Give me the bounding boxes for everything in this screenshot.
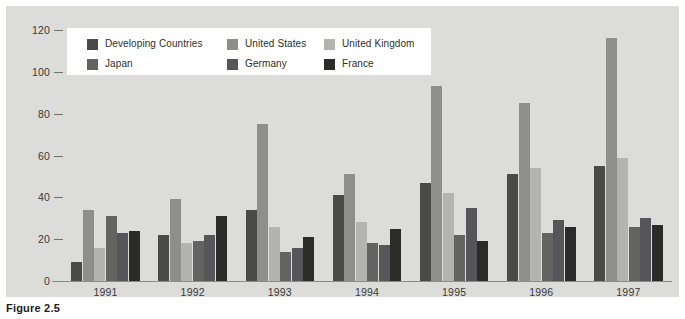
legend-swatch-germany [227, 59, 238, 70]
legend-row-1: Developing Countries United States Unite… [67, 34, 431, 54]
bar-developing-countries-1992 [158, 235, 169, 281]
bar-france-1992 [216, 216, 227, 281]
bar-france-1995 [477, 241, 488, 281]
bar-united-states-1995 [431, 86, 442, 281]
bar-united-kingdom-1996 [530, 168, 541, 281]
y-axis-tick-label: 60 [16, 151, 50, 162]
bar-united-kingdom-1994 [356, 222, 367, 281]
bar-united-kingdom-1992 [181, 243, 192, 281]
bar-germany-1991 [117, 233, 128, 281]
bar-japan-1993 [280, 252, 291, 281]
x-axis-tick-label: 1996 [511, 287, 571, 298]
bar-united-states-1997 [606, 38, 617, 281]
legend-label-developing-countries: Developing Countries [105, 39, 203, 49]
legend-swatch-developing-countries [87, 39, 98, 50]
legend-swatch-japan [87, 59, 98, 70]
bar-germany-1994 [379, 245, 390, 281]
y-axis-tick-label-wrap: 120 [8, 30, 50, 31]
y-axis-tick-label-wrap: 0 [8, 281, 50, 282]
bar-japan-1995 [454, 235, 465, 281]
y-axis-tick-label: 120 [16, 25, 50, 36]
chart-legend: Developing Countries United States Unite… [67, 28, 431, 75]
y-axis-tick-label: 20 [16, 234, 50, 245]
bar-germany-1995 [466, 208, 477, 281]
bar-united-states-1996 [519, 103, 530, 281]
bar-united-kingdom-1995 [443, 193, 454, 281]
x-axis-tick-label: 1993 [250, 287, 310, 298]
bar-developing-countries-1995 [420, 183, 431, 281]
y-axis-tick [54, 156, 63, 157]
bar-united-kingdom-1993 [269, 227, 280, 281]
figure-caption: Figure 2.5 [6, 303, 60, 314]
bar-united-kingdom-1997 [617, 158, 628, 281]
bar-france-1991 [129, 231, 140, 281]
legend-item-united-states[interactable]: United States [227, 34, 306, 54]
bar-japan-1991 [106, 216, 117, 281]
y-axis-tick-label-wrap: 20 [8, 239, 50, 240]
legend-item-france[interactable]: France [324, 54, 374, 74]
legend-label-germany: Germany [245, 59, 287, 69]
bar-japan-1997 [629, 227, 640, 281]
bar-france-1996 [565, 227, 576, 281]
y-axis-tick-label: 40 [16, 192, 50, 203]
bar-germany-1997 [640, 218, 651, 281]
y-axis-tick-label-wrap: 40 [8, 197, 50, 198]
figure-container: 020406080100120 199119921993199419951996… [0, 0, 685, 319]
x-axis-tick-label: 1997 [598, 287, 658, 298]
bar-united-states-1992 [170, 199, 181, 281]
legend-item-japan[interactable]: Japan [87, 54, 133, 74]
y-axis-tick-label: 0 [16, 276, 50, 287]
legend-swatch-united-states [227, 39, 238, 50]
legend-label-united-kingdom: United Kingdom [342, 39, 415, 49]
y-axis-tick-label: 100 [16, 67, 50, 78]
bar-united-states-1994 [344, 174, 355, 281]
y-axis-tick [54, 239, 63, 240]
y-axis-tick [54, 72, 63, 73]
y-axis-tick [54, 30, 63, 31]
legend-label-united-states: United States [245, 39, 306, 49]
bar-germany-1996 [553, 220, 564, 281]
bar-france-1997 [652, 225, 663, 281]
bar-germany-1992 [204, 235, 215, 281]
x-axis-tick-label: 1994 [337, 287, 397, 298]
legend-item-united-kingdom[interactable]: United Kingdom [324, 34, 415, 54]
bar-japan-1996 [542, 233, 553, 281]
bar-developing-countries-1993 [246, 210, 257, 281]
y-axis-tick [54, 197, 63, 198]
x-axis-tick-label: 1991 [76, 287, 136, 298]
bar-united-states-1991 [83, 210, 94, 281]
y-axis-tick-label: 80 [16, 109, 50, 120]
bar-developing-countries-1994 [333, 195, 344, 281]
bar-france-1994 [390, 229, 401, 281]
y-axis-tick-label-wrap: 100 [8, 72, 50, 73]
legend-item-developing-countries[interactable]: Developing Countries [87, 34, 203, 54]
bar-united-states-1993 [257, 124, 268, 281]
legend-swatch-france [324, 59, 335, 70]
bar-germany-1993 [292, 248, 303, 281]
bar-japan-1994 [367, 243, 378, 281]
y-axis-tick-label-wrap: 80 [8, 114, 50, 115]
y-axis-tick-label-wrap: 60 [8, 156, 50, 157]
legend-row-2: Japan Germany France [67, 54, 431, 74]
y-axis-tick [54, 114, 63, 115]
legend-swatch-united-kingdom [324, 39, 335, 50]
bar-japan-1992 [193, 241, 204, 281]
x-axis-line [52, 281, 672, 282]
bar-france-1993 [303, 237, 314, 281]
bar-developing-countries-1996 [507, 174, 518, 281]
bar-developing-countries-1997 [594, 166, 605, 281]
bar-united-kingdom-1991 [94, 248, 105, 281]
x-axis-tick-label: 1992 [163, 287, 223, 298]
legend-item-germany[interactable]: Germany [227, 54, 287, 74]
legend-label-france: France [342, 59, 374, 69]
bar-developing-countries-1991 [71, 262, 82, 281]
x-axis-tick-label: 1995 [424, 287, 484, 298]
legend-label-japan: Japan [105, 59, 133, 69]
